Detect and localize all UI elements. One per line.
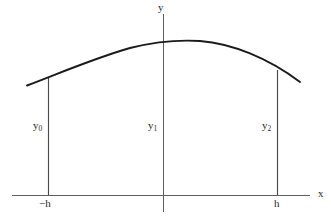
- figure-container: y x −h h y0 y1 y2: [0, 0, 331, 220]
- ordinate-label-y2: y2: [262, 120, 271, 132]
- x-tick-label-minus-h: −h: [39, 198, 51, 209]
- ordinate-label-y1: y1: [148, 120, 157, 132]
- ordinate-label-y0-subscript: 0: [39, 124, 43, 133]
- y-axis-label: y: [158, 2, 164, 13]
- ordinate-label-y2-subscript: 2: [268, 124, 272, 133]
- ordinate-label-y1-subscript: 1: [154, 124, 158, 133]
- ordinate-label-y0: y0: [33, 120, 42, 132]
- x-axis-label: x: [318, 188, 324, 199]
- figure-canvas: [0, 0, 331, 220]
- x-tick-label-h: h: [274, 198, 280, 209]
